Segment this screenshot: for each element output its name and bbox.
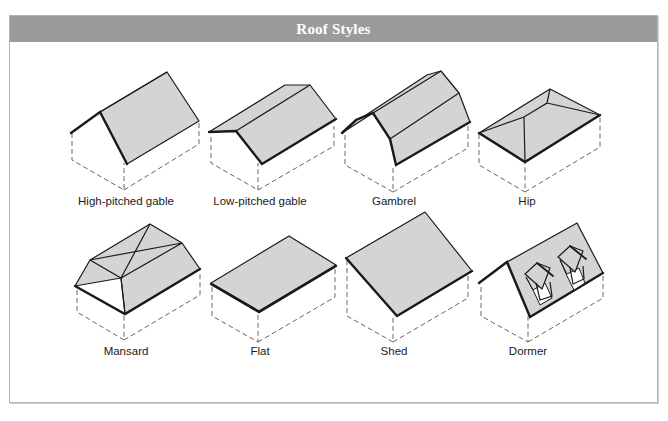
label-hip: Hip xyxy=(518,195,535,207)
low-pitched-gable-roof-icon xyxy=(209,85,336,190)
dormer-roof-icon xyxy=(479,223,603,342)
label-dormer: Dormer xyxy=(509,345,547,357)
flat-roof-icon xyxy=(211,236,336,342)
label-mansard: Mansard xyxy=(104,345,149,357)
label-high-pitched-gable: High-pitched gable xyxy=(78,195,174,207)
high-pitched-gable-roof-icon xyxy=(71,72,199,190)
hip-roof-icon xyxy=(479,89,600,192)
label-flat: Flat xyxy=(250,345,269,357)
label-shed: Shed xyxy=(381,345,408,357)
gambrel-roof-icon xyxy=(342,71,470,192)
label-gambrel: Gambrel xyxy=(372,195,416,207)
roof-illustrations xyxy=(0,0,668,421)
mansard-roof-icon xyxy=(75,224,200,340)
label-low-pitched-gable: Low-pitched gable xyxy=(213,195,306,207)
shed-roof-icon xyxy=(346,212,472,342)
